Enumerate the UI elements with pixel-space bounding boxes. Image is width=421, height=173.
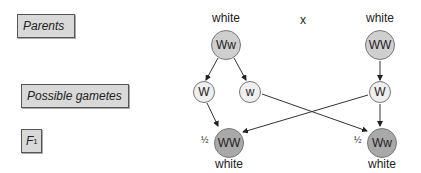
- f1-right-genotype: Ww: [367, 128, 397, 158]
- left-parent-phenotype: white: [206, 11, 246, 25]
- gamete-left-W: W: [193, 81, 215, 103]
- right-parent-phenotype: white: [358, 11, 402, 25]
- gamete-text: W: [198, 85, 209, 99]
- f1-left-phenotype: white: [208, 157, 250, 171]
- left-parent-genotype-text: Ww: [216, 38, 236, 52]
- gamete-left-w: w: [239, 81, 261, 103]
- right-parent-genotype: WW: [365, 30, 395, 60]
- gamete-text: W: [374, 85, 385, 99]
- right-parent-genotype-text: WW: [369, 38, 392, 52]
- gamete-right-W: W: [369, 81, 391, 103]
- gamete-text: w: [246, 85, 255, 99]
- left-parent-genotype: Ww: [211, 30, 241, 60]
- f1-left-genotype: WW: [214, 128, 244, 158]
- f1-left-genotype-text: WW: [218, 136, 241, 150]
- cross-symbol: x: [297, 13, 309, 27]
- f1-right-phenotype: white: [361, 157, 403, 171]
- f1-right-fraction: ½: [354, 135, 362, 145]
- f1-left-fraction: ½: [201, 135, 209, 145]
- f1-right-genotype-text: Ww: [372, 136, 392, 150]
